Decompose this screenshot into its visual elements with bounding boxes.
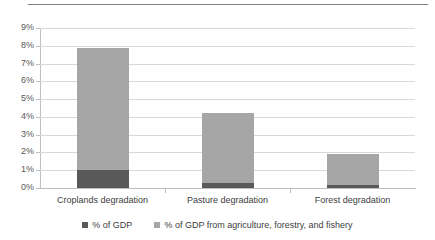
legend-color-swatch-icon <box>82 222 88 228</box>
legend-color-swatch-icon <box>154 222 160 228</box>
x-axis-line <box>40 188 416 189</box>
y-axis-tick-label: 4% <box>0 112 34 121</box>
bar-stack[interactable] <box>202 28 254 188</box>
y-axis-tick-label: 7% <box>0 59 34 68</box>
bar-segment[interactable] <box>327 185 379 188</box>
top-divider-rule <box>28 4 428 5</box>
bar-stack[interactable] <box>327 28 379 188</box>
legend-label: % of GDP <box>92 220 132 230</box>
x-axis-tick-mark <box>165 189 166 193</box>
y-axis-tick-label: 1% <box>0 165 34 174</box>
y-axis-tick-label: 9% <box>0 23 34 32</box>
bar-segment[interactable] <box>77 48 129 171</box>
y-axis-tick-label: 5% <box>0 94 34 103</box>
y-axis-tick-label: 0% <box>0 183 34 192</box>
bar-segment[interactable] <box>202 183 254 188</box>
y-axis-tick-label: 8% <box>0 41 34 50</box>
y-axis-tick-label: 3% <box>0 130 34 139</box>
bar-stack[interactable] <box>77 28 129 188</box>
bar-segment[interactable] <box>327 154 379 185</box>
bar-segment[interactable] <box>77 170 129 188</box>
x-axis-tick-label: Forest degradation <box>273 195 433 206</box>
chart-legend: % of GDP% of GDP from agriculture, fores… <box>0 220 435 230</box>
y-axis-tick-label: 6% <box>0 76 34 85</box>
legend-item[interactable]: % of GDP <box>82 220 132 230</box>
bar-segment[interactable] <box>202 113 254 182</box>
legend-item[interactable]: % of GDP from agriculture, forestry, and… <box>154 220 352 230</box>
x-axis-tick-mark <box>290 189 291 193</box>
plot-area <box>40 28 415 188</box>
y-axis-tick-label: 2% <box>0 147 34 156</box>
legend-label: % of GDP from agriculture, forestry, and… <box>164 220 352 230</box>
chart-container: 9%8%7%6%5%4%3%2%1%0% Croplands degradati… <box>0 0 435 240</box>
